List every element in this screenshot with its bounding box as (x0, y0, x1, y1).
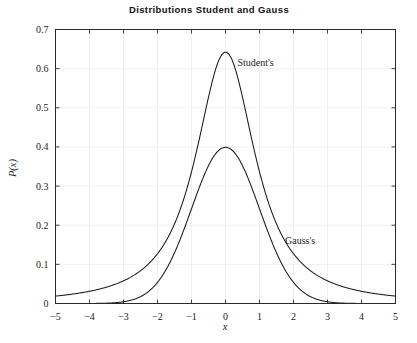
annotation-gauss-s: Gauss's (285, 235, 315, 246)
x-tick-label: 1 (257, 311, 262, 322)
x-tick-label: −4 (84, 311, 95, 322)
x-tick-label: 5 (393, 311, 398, 322)
x-axis-label: x (222, 321, 228, 332)
y-tick-label: 0.4 (36, 141, 49, 152)
x-tick-label: −2 (152, 311, 163, 322)
y-tick-label: 0.3 (36, 181, 49, 192)
y-tick-label: 0.2 (36, 220, 49, 231)
y-tick-label: 0.5 (36, 102, 49, 113)
y-tick-label: 0.7 (36, 24, 49, 35)
x-tick-label: −5 (50, 311, 61, 322)
annotation-student-s: Student's (237, 57, 273, 68)
chart-title: Distributions Student and Gauss (129, 4, 289, 15)
chart-container: Distributions Student and Gauss −5−4−3−2… (0, 0, 417, 343)
x-tick-label: 3 (325, 311, 330, 322)
curve-annotations: Student'sGauss's (237, 57, 315, 246)
gridlines (56, 30, 396, 304)
y-axis-label: P(x) (7, 158, 19, 178)
x-tick-label: −3 (118, 311, 129, 322)
x-tick-label: 2 (291, 311, 296, 322)
x-tick-label: −1 (186, 311, 197, 322)
y-tick-label: 0.6 (36, 63, 49, 74)
x-tick-label: 0 (223, 311, 228, 322)
y-tick-label: 0.1 (36, 259, 49, 270)
x-tick-label: 4 (359, 311, 364, 322)
distributions-plot: Distributions Student and Gauss −5−4−3−2… (0, 0, 417, 343)
y-tick-label: 0 (44, 298, 49, 309)
